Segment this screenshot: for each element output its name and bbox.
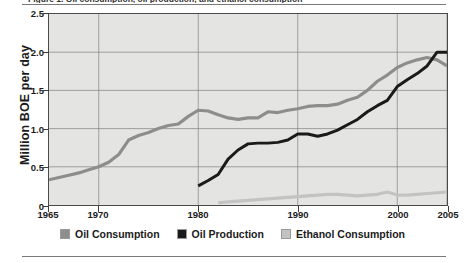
y-tick-label: 0.5: [14, 162, 44, 173]
y-tick-mark: [43, 167, 49, 168]
figure-container: Figure 1. Oil consumption, oil productio…: [0, 0, 465, 263]
x-tick-mark: [298, 206, 299, 212]
y-tick-mark: [43, 13, 49, 14]
x-tick-mark: [48, 206, 49, 212]
legend-label: Ethanol Consumption: [296, 228, 405, 240]
y-tick-mark: [43, 90, 49, 91]
top-divider-rule: [22, 4, 446, 5]
legend-label: Oil Consumption: [75, 228, 160, 240]
bottom-divider-rule: [22, 256, 446, 257]
x-tick-mark: [198, 206, 199, 212]
y-tick-label: 1.0: [14, 123, 44, 134]
legend-swatch-icon: [60, 229, 70, 239]
y-tick-label: 1.5: [14, 85, 44, 96]
legend-item-oil-consumption[interactable]: Oil Consumption: [60, 228, 160, 240]
y-axis-tick-labels: 00.51.01.52.02.5: [14, 0, 44, 263]
legend-swatch-icon: [177, 229, 187, 239]
chart-legend: Oil ConsumptionOil ProductionEthanol Con…: [0, 228, 465, 240]
series-line-oil-consumption: [49, 58, 447, 180]
y-tick-mark: [43, 129, 49, 130]
figure-caption-sliver: Figure 1. Oil consumption, oil productio…: [28, 0, 328, 3]
y-tick-label: 2.0: [14, 46, 44, 57]
y-tick-mark: [43, 52, 49, 53]
x-tick-mark: [98, 206, 99, 212]
legend-swatch-icon: [281, 229, 291, 239]
y-tick-label: 2.5: [14, 8, 44, 19]
legend-label: Oil Production: [192, 228, 264, 240]
x-tick-label: 2005: [425, 209, 465, 220]
chart-svg: [49, 14, 447, 205]
series-line-ethanol-consumption: [218, 192, 447, 203]
legend-item-ethanol-consumption[interactable]: Ethanol Consumption: [281, 228, 405, 240]
chart-plot-area: [48, 13, 448, 206]
x-axis-tick-labels: 196519701980199020002005: [0, 209, 465, 223]
x-tick-mark: [398, 206, 399, 212]
legend-item-oil-production[interactable]: Oil Production: [177, 228, 264, 240]
x-tick-mark: [448, 206, 449, 212]
